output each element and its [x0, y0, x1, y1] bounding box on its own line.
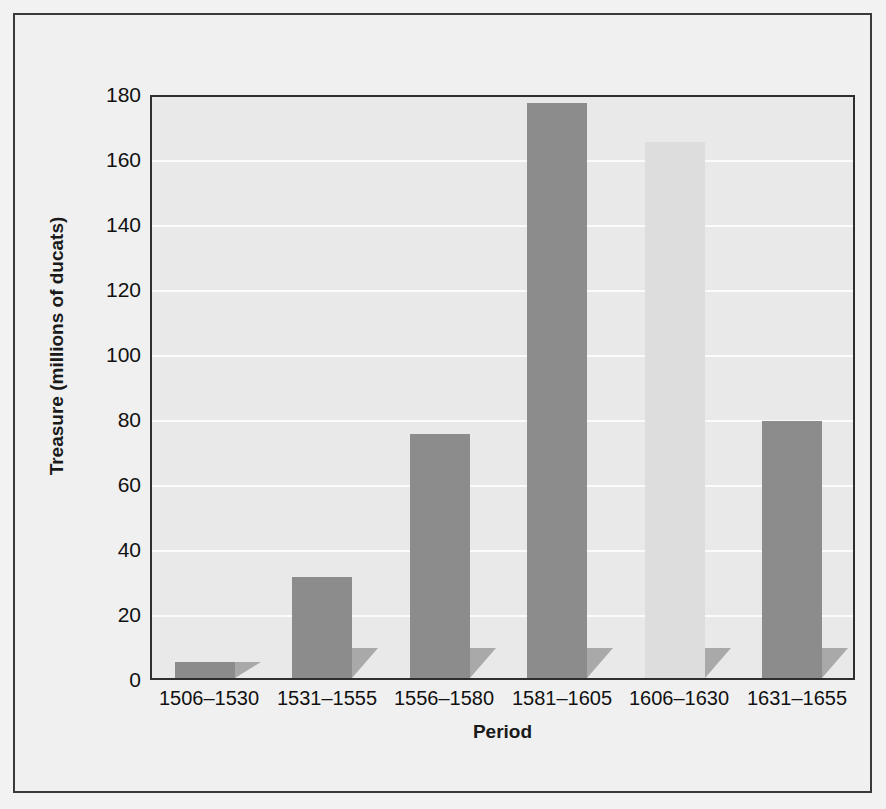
bar-body — [527, 103, 587, 678]
x-tick-1556–1580: 1556–1580 — [385, 687, 503, 710]
bar-1556–1580[interactable] — [410, 434, 470, 678]
bar-shadow — [352, 577, 378, 678]
bar-shadow — [235, 662, 261, 678]
bar-body — [410, 434, 470, 678]
y-tick-160: 160 — [21, 148, 141, 172]
bar-1506–1530[interactable] — [175, 662, 235, 678]
bar-shadow — [822, 421, 848, 678]
y-tick-180: 180 — [21, 83, 141, 107]
y-tick-80: 80 — [21, 408, 141, 432]
x-tick-1581–1605: 1581–1605 — [503, 687, 621, 710]
bar-1606–1630[interactable] — [645, 142, 705, 678]
x-tick-1531–1555: 1531–1555 — [268, 687, 386, 710]
y-tick-40: 40 — [21, 538, 141, 562]
x-axis-title: Period — [150, 721, 855, 743]
y-tick-120: 120 — [21, 278, 141, 302]
x-tick-1631–1655: 1631–1655 — [738, 687, 856, 710]
x-tick-1606–1630: 1606–1630 — [620, 687, 738, 710]
bar-shadow — [705, 142, 731, 678]
bar-body — [292, 577, 352, 678]
figure-canvas: Treasure (millions of ducats) 180 160 14… — [0, 0, 886, 809]
bar-body — [762, 421, 822, 678]
y-tick-100: 100 — [21, 343, 141, 367]
bar-shadow — [470, 434, 496, 678]
y-tick-60: 60 — [21, 473, 141, 497]
y-tick-20: 20 — [21, 603, 141, 627]
y-tick-0: 0 — [21, 668, 141, 692]
bar-body — [175, 662, 235, 678]
bar-1531–1555[interactable] — [292, 577, 352, 678]
bar-shadow — [587, 103, 613, 678]
x-tick-1506–1530: 1506–1530 — [150, 687, 268, 710]
bar-1631–1655[interactable] — [762, 421, 822, 678]
bar-1581–1605[interactable] — [527, 103, 587, 678]
y-tick-140: 140 — [21, 213, 141, 237]
bar-body — [645, 142, 705, 678]
figure-outer-frame: Treasure (millions of ducats) 180 160 14… — [13, 13, 872, 793]
y-axis-tick-labels: 180 160 140 120 100 80 60 40 20 0 — [15, 95, 141, 680]
